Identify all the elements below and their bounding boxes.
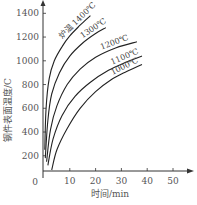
curve-1300 <box>45 28 106 159</box>
x-tick-label: 50 <box>167 176 179 186</box>
y-tick-label: 200 <box>22 151 39 161</box>
x-tick-label: 40 <box>141 176 153 186</box>
y-tick-label: 600 <box>22 103 39 113</box>
temperature-chart: 200400600800100012001400 1020304050 炉温 1… <box>0 0 197 205</box>
origin-label: 0 <box>32 177 38 187</box>
curve-1000 <box>52 64 142 170</box>
y-tick-label: 1400 <box>16 8 39 18</box>
y-axis-title: 钢件表面温度/C <box>2 78 13 142</box>
x-tick-label: 20 <box>90 176 102 186</box>
x-tick-label: 30 <box>116 176 128 186</box>
curve-1100 <box>48 56 142 165</box>
x-axis-title: 时间/min <box>91 188 129 199</box>
y-tick-label: 1200 <box>16 32 39 42</box>
y-axis-arrow-icon <box>41 0 46 6</box>
curve-labels: 炉温 1400℃1300℃1200℃1100℃1000℃ <box>56 0 140 77</box>
y-tick-label: 1000 <box>16 56 39 66</box>
y-tick-label: 800 <box>22 80 39 90</box>
y-tick-label: 400 <box>22 127 39 137</box>
x-tick-label: 10 <box>64 176 76 186</box>
y-ticks: 200400600800100012001400 <box>16 8 46 160</box>
x-axis-arrow-icon <box>187 169 194 174</box>
